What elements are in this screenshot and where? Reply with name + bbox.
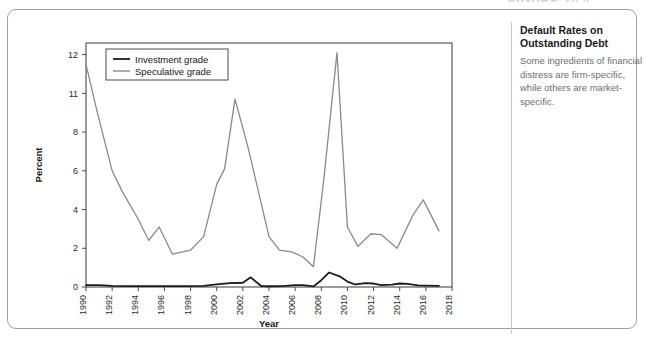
default-rates-line-chart: 024681112 199019921994199619982000200220… — [20, 22, 506, 334]
figure-number-heading: FIGURE 20.4 — [508, 0, 591, 2]
y-axis-title: Percent — [33, 147, 44, 183]
x-tick-label: 1998 — [183, 295, 193, 315]
x-tick-label: 2000 — [209, 295, 219, 315]
x-tick-label: 2006 — [287, 295, 297, 315]
caption-title-line-1: Default Rates on — [520, 24, 603, 36]
figure-card: 024681112 199019921994199619982000200220… — [7, 9, 637, 329]
x-tick-label: 1990 — [78, 295, 88, 315]
y-tick-label: 11 — [69, 89, 78, 99]
caption-title: Default Rates on Outstanding Debt — [520, 24, 642, 50]
y-tick-label: 4 — [73, 205, 78, 215]
y-tick-label: 6 — [73, 166, 78, 176]
y-tick-label: 0 — [73, 282, 78, 292]
chart-legend[interactable]: Investment grade Speculative grade — [106, 49, 228, 80]
x-axis-title: Year — [259, 318, 279, 329]
x-tick-label: 2014 — [392, 295, 402, 315]
x-tick-label: 2004 — [261, 295, 271, 315]
x-tick-label: 2012 — [366, 295, 376, 315]
x-tick-label: 1992 — [104, 295, 114, 315]
x-tick-label: 1994 — [130, 295, 140, 315]
x-tick-label: 2010 — [339, 295, 349, 315]
x-tick-label: 2018 — [444, 295, 454, 315]
y-tick-label: 12 — [68, 50, 78, 60]
y-tick-label: 2 — [73, 243, 78, 253]
x-tick-label: 2002 — [235, 295, 245, 315]
y-tick-label: 8 — [73, 127, 78, 137]
legend-label-investment-grade: Investment grade — [135, 54, 208, 65]
x-tick-label: 2008 — [313, 295, 323, 315]
caption-body: Some ingredients of financial distress a… — [520, 54, 642, 108]
caption-panel: Default Rates on Outstanding Debt Some i… — [520, 24, 642, 108]
x-tick-label: 2016 — [418, 295, 428, 315]
caption-divider — [511, 22, 512, 334]
y-axis: 024681112 — [68, 50, 86, 292]
legend-label-speculative-grade: Speculative grade — [135, 66, 211, 77]
caption-title-line-2: Outstanding Debt — [520, 37, 608, 49]
x-axis: 1990199219941996199820002002200420062008… — [78, 287, 454, 315]
x-tick-label: 1996 — [156, 295, 166, 315]
chart-region: 024681112 199019921994199619982000200220… — [20, 22, 506, 334]
